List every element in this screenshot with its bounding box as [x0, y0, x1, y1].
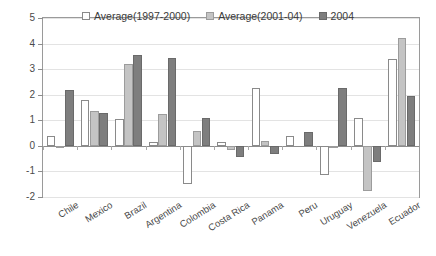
bar: [149, 142, 158, 146]
bar: [227, 146, 236, 150]
bar: [373, 146, 382, 163]
bar: [354, 118, 363, 146]
y-axis-tick-label: -1: [26, 166, 35, 176]
x-axis-label: Panama: [250, 200, 285, 227]
bar-group: [146, 18, 180, 197]
y-axis-tick-label: 1: [29, 115, 35, 125]
bar: [124, 64, 133, 146]
gridline: [43, 197, 419, 198]
bar: [320, 146, 329, 175]
x-axis-tick: [316, 146, 317, 150]
x-axis-tick: [146, 146, 147, 150]
x-axis-label: Peru: [297, 200, 319, 219]
bar-group: [351, 18, 385, 197]
bar-chart: 543210-1-2 ChileMexicoBrazilArgentinaCol…: [0, 0, 436, 256]
bar: [252, 88, 261, 146]
bar: [183, 146, 192, 184]
bar: [133, 55, 142, 146]
bar: [99, 113, 108, 146]
x-axis-label: Chile: [57, 200, 81, 220]
x-axis-label-text: Ecuador: [387, 200, 422, 227]
bar-groups: [43, 18, 419, 197]
y-axis-tick: [38, 197, 43, 198]
bar: [158, 114, 167, 146]
bar-group: [316, 18, 350, 197]
bar: [338, 88, 347, 146]
bar: [261, 141, 270, 146]
bar: [90, 111, 99, 146]
x-axis-tick: [385, 146, 386, 150]
x-axis-tick: [180, 146, 181, 150]
bar: [81, 100, 90, 146]
x-axis-labels: ChileMexicoBrazilArgentinaColombiaCosta …: [42, 200, 420, 256]
y-axis-tick-label: 5: [29, 13, 35, 23]
bar: [168, 58, 177, 146]
bar: [304, 132, 313, 146]
bar-group: [180, 18, 214, 197]
bar: [329, 146, 338, 149]
plot-area: 543210-1-2: [42, 17, 420, 198]
bar: [398, 38, 407, 145]
x-axis-label: Argentina: [143, 200, 183, 230]
bar: [270, 146, 279, 154]
bar: [236, 146, 245, 158]
x-axis-tick: [282, 146, 283, 150]
x-axis-tick: [214, 146, 215, 150]
bar: [217, 142, 226, 146]
y-axis-tick-label: 2: [29, 90, 35, 100]
y-axis-tick-label: -2: [26, 192, 35, 202]
x-axis-label-text: Mexico: [84, 200, 115, 224]
x-axis-label-text: Panama: [250, 200, 285, 227]
y-axis-tick-label: 0: [29, 141, 35, 151]
bar: [56, 146, 65, 149]
bar-group: [385, 18, 419, 197]
bar: [363, 146, 372, 191]
x-axis-tick: [248, 146, 249, 150]
bar: [193, 131, 202, 146]
x-axis-label-text: Peru: [297, 200, 319, 219]
x-axis-label-text: Chile: [57, 200, 81, 220]
bar-group: [248, 18, 282, 197]
bar-group: [77, 18, 111, 197]
bar: [202, 118, 211, 146]
bar-group: [214, 18, 248, 197]
x-axis-tick: [77, 146, 78, 150]
bar: [47, 136, 56, 146]
x-axis-tick: [351, 146, 352, 150]
bar-group: [111, 18, 145, 197]
bar-group: [43, 18, 77, 197]
y-axis-tick-label: 4: [29, 39, 35, 49]
bar-group: [282, 18, 316, 197]
x-axis-tick: [43, 146, 44, 150]
bar: [65, 90, 74, 146]
x-axis-label: Ecuador: [387, 200, 422, 227]
bar: [115, 119, 124, 146]
x-axis-label: Mexico: [84, 200, 115, 224]
x-axis-label-text: Argentina: [143, 200, 183, 230]
bar: [388, 59, 397, 146]
bar: [286, 136, 295, 146]
x-axis-tick: [111, 146, 112, 150]
y-axis-tick-label: 3: [29, 64, 35, 74]
bar: [407, 96, 416, 146]
